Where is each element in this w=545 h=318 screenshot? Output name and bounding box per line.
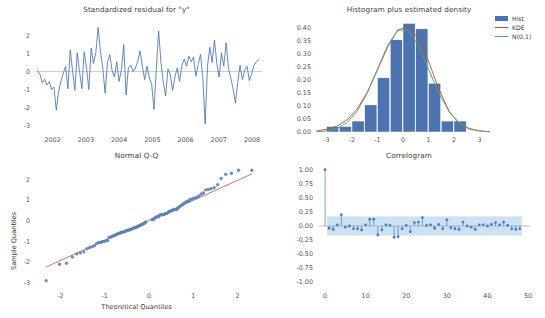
- correlogram-ytick: 0.00: [281, 222, 313, 230]
- qq-xtick: -1: [101, 292, 107, 300]
- qq-xtick: 1: [191, 292, 195, 300]
- correlogram-ytick: 1.00: [281, 166, 313, 174]
- correlogram-ytick: 0.75: [281, 180, 313, 188]
- residual-series-svg: [36, 22, 262, 132]
- correlogram-xtick: 0: [323, 292, 327, 300]
- histogram-panel-title: Histogram plus estimated density: [273, 5, 545, 14]
- qq-x-axis-label: Theoretical Quantiles: [0, 303, 273, 311]
- histogram-legend: HistKDEN(0,1): [495, 14, 531, 41]
- correlogram-xtick: 20: [402, 292, 410, 300]
- correlogram-stems-svg: [319, 164, 530, 288]
- histogram-ytick: 0.05: [283, 115, 311, 123]
- correlogram-ytick: 0.25: [281, 208, 313, 216]
- histogram-plot-area: [315, 20, 491, 132]
- correlogram-xtick: 40: [483, 292, 491, 300]
- residual-ytick: 2: [12, 32, 30, 40]
- histogram-xtick: 0: [401, 136, 405, 144]
- histogram-ytick: 0.40: [283, 24, 311, 32]
- histogram-xtick: -3: [323, 136, 329, 144]
- correlogram-ytick: -1.00: [281, 278, 313, 286]
- residual-xtick: 2008: [244, 136, 260, 144]
- correlogram-plot-area: [319, 164, 530, 288]
- residual-plot-area: [36, 22, 262, 132]
- legend-swatch-icon: [495, 16, 508, 21]
- histogram-ytick: 0.00: [283, 128, 311, 136]
- histogram-ytick: 0.10: [283, 102, 311, 110]
- histogram-ytick: 0.20: [283, 76, 311, 84]
- histogram-ytick: 0.15: [283, 89, 311, 97]
- histogram-xtick: 1: [426, 136, 430, 144]
- residual-xtick: 2005: [144, 136, 160, 144]
- qq-ytick: 2: [14, 176, 30, 184]
- qq-panel-title: Normal Q-Q: [0, 151, 273, 160]
- legend-item-hist: Hist: [495, 14, 531, 23]
- qq-plot-area: [36, 164, 262, 288]
- qq-xtick: 2: [236, 292, 240, 300]
- residual-xtick: 2004: [111, 136, 127, 144]
- qq-ytick: -3: [14, 279, 30, 287]
- histogram-xtick: -1: [374, 136, 380, 144]
- histogram-xtick: 2: [452, 136, 456, 144]
- residual-xtick: 2003: [78, 136, 94, 144]
- histogram-ytick: 0.25: [283, 63, 311, 71]
- panel-histogram: Histogram plus estimated density 0.400.3…: [273, 0, 545, 159]
- legend-item-n-0-1: N(0,1): [495, 32, 531, 41]
- residual-xtick: 2007: [211, 136, 227, 144]
- legend-swatch-icon: [495, 36, 508, 37]
- correlogram-ytick: -0.25: [281, 236, 313, 244]
- residual-ytick: -3: [12, 122, 30, 130]
- qq-xtick: 0: [147, 292, 151, 300]
- correlogram-ytick: -0.75: [281, 264, 313, 272]
- residual-xtick: 2002: [44, 136, 60, 144]
- correlogram-ytick: 0.50: [281, 194, 313, 202]
- histogram-ytick: 0.30: [283, 50, 311, 58]
- diagnostics-figure: Standardized residual for "y" 210-1-2-3 …: [0, 0, 545, 318]
- residual-panel-title: Standardized residual for "y": [0, 5, 273, 14]
- qq-xtick: -2: [57, 292, 63, 300]
- correlogram-ytick: -0.50: [281, 250, 313, 258]
- legend-swatch-icon: [495, 27, 508, 28]
- panel-normal-qq: Normal Q-Q 210-1-2-3 -2-1012 Sample Quan…: [0, 150, 273, 318]
- panel-correlogram: Correlogram 1.000.750.500.250.00-0.25-0.…: [273, 150, 545, 318]
- residual-ytick: -2: [12, 104, 30, 112]
- histogram-ytick: 0.35: [283, 37, 311, 45]
- panel-standardized-residual: Standardized residual for "y" 210-1-2-3 …: [0, 0, 273, 159]
- legend-label: KDE: [512, 24, 525, 31]
- histogram-xtick: -2: [349, 136, 355, 144]
- histogram-xtick: 3: [477, 136, 481, 144]
- correlogram-xtick: 10: [362, 292, 370, 300]
- qq-points-svg: [36, 164, 262, 288]
- histogram-bars-svg: [315, 20, 491, 132]
- legend-item-kde: KDE: [495, 23, 531, 32]
- legend-label: N(0,1): [512, 33, 531, 40]
- correlogram-xtick: 50: [524, 292, 532, 300]
- legend-label: Hist: [512, 15, 524, 22]
- qq-ytick: 1: [14, 196, 30, 204]
- qq-y-axis-label: Sample Quantiles: [10, 212, 18, 270]
- residual-ytick: 1: [12, 50, 30, 58]
- residual-ytick: 0: [12, 68, 30, 76]
- residual-ytick: -1: [12, 86, 30, 94]
- correlogram-xtick: 30: [443, 292, 451, 300]
- correlogram-panel-title: Correlogram: [273, 151, 545, 160]
- residual-xtick: 2006: [177, 136, 193, 144]
